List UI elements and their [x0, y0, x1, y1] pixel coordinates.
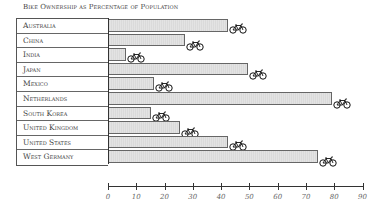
bicycle-icon	[229, 136, 247, 147]
x-tick-label: 70	[301, 193, 310, 201]
x-tick	[193, 183, 194, 190]
x-tick-label: 40	[217, 193, 226, 201]
bicycle-icon	[249, 65, 267, 76]
category-label: Mexico	[17, 77, 108, 92]
category-label: United States	[17, 136, 108, 151]
bicycle-icon	[229, 19, 247, 30]
bar	[109, 150, 318, 163]
bar	[109, 19, 228, 32]
x-tick-label: 20	[160, 193, 169, 201]
category-label: Netherlands	[17, 92, 108, 107]
chart-title: Bike Ownership as Percentage of Populati…	[23, 3, 178, 11]
x-tick	[165, 183, 166, 190]
category-label: West Germany	[17, 150, 108, 165]
bicycle-icon	[181, 123, 199, 134]
bicycle-icon	[186, 36, 204, 47]
bar	[109, 136, 228, 149]
x-tick	[249, 183, 250, 190]
bar	[109, 34, 185, 47]
x-tick-label: 60	[273, 193, 282, 201]
x-tick	[136, 183, 137, 190]
bar	[109, 92, 332, 105]
category-label: Australia	[17, 19, 108, 34]
x-tick-label: 10	[132, 193, 141, 201]
bicycle-icon	[155, 77, 173, 88]
bicycle-icon	[333, 94, 351, 105]
bicycle-icon	[127, 48, 145, 59]
bar	[109, 107, 151, 120]
x-tick-label: 0	[106, 193, 110, 201]
bar	[109, 63, 248, 76]
bar	[109, 48, 126, 61]
x-tick	[306, 183, 307, 190]
x-tick	[278, 183, 279, 190]
category-label: Japan	[17, 63, 108, 78]
x-tick-label: 30	[188, 193, 197, 201]
bar	[109, 77, 154, 90]
category-label: India	[17, 48, 108, 63]
category-label: United Kingdom	[17, 121, 108, 136]
bar	[109, 121, 180, 134]
x-tick-label: 80	[330, 193, 339, 201]
bicycle-icon	[152, 107, 170, 118]
x-tick	[363, 183, 364, 190]
x-tick	[221, 183, 222, 190]
category-label: South Korea	[17, 107, 108, 122]
category-label-column: Australia China India Japan Mexico Nethe…	[16, 18, 108, 166]
category-label: China	[17, 34, 108, 49]
bicycle-icon	[319, 152, 337, 163]
x-tick	[108, 183, 109, 190]
x-axis-line	[108, 186, 363, 187]
x-tick-label: 50	[245, 193, 254, 201]
x-tick-label: 90	[358, 193, 367, 201]
x-tick	[334, 183, 335, 190]
